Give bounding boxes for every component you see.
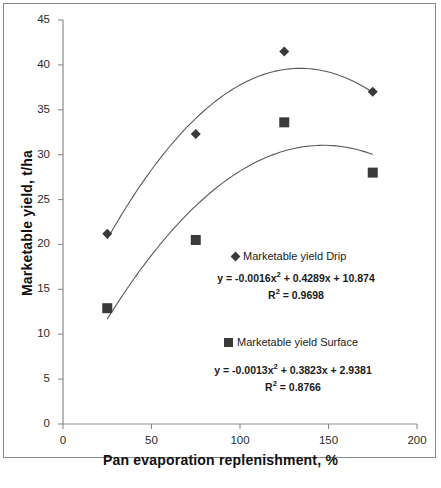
- data-point-drip: [368, 87, 378, 97]
- drip-trendline-equation: y = -0.0016x2 + 0.4289x + 10.874: [188, 270, 404, 284]
- x-tick-label: 150: [309, 434, 349, 446]
- x-tick-label: 200: [397, 434, 437, 446]
- data-point-surface: [279, 117, 289, 127]
- x-tick-marks: [63, 424, 417, 429]
- legend-label-surface: Marketable yield Surface: [237, 336, 358, 348]
- x-tick-label: 50: [132, 434, 172, 446]
- drip-r-squared: R2 = 0.9698: [188, 287, 404, 301]
- legend-entry-drip[interactable]: Marketable yield Drip: [232, 250, 346, 262]
- x-tick-label: 0: [43, 434, 83, 446]
- diamond-marker-icon: [231, 251, 241, 261]
- y-tick-label: 5: [24, 372, 50, 384]
- data-point-surface: [102, 303, 112, 313]
- y-tick-marks: [58, 20, 63, 424]
- legend-label-drip: Marketable yield Drip: [243, 250, 346, 262]
- data-point-surface: [368, 168, 378, 178]
- y-tick-label: 45: [24, 13, 50, 25]
- chart-figure: 051015202530354045 050100150200 Marketab…: [0, 0, 441, 488]
- x-axis-title: Pan evaporation replenishment, %: [0, 452, 441, 468]
- legend-entry-surface[interactable]: Marketable yield Surface: [224, 336, 358, 348]
- surface-r-squared: R2 = 0.8766: [185, 379, 401, 393]
- data-point-drip: [102, 229, 112, 239]
- data-point-drip: [191, 129, 201, 139]
- y-tick-label: 40: [24, 58, 50, 70]
- trendline-drip: [107, 68, 373, 239]
- data-point-drip: [279, 46, 289, 56]
- surface-trendline-equation: y = -0.0013x2 + 0.3823x + 2.9381: [185, 362, 401, 376]
- scatter-plot-canvas: [0, 0, 441, 488]
- y-tick-label: 0: [24, 417, 50, 429]
- y-axis-title: Marketable yield, t/ha: [19, 103, 35, 343]
- x-tick-label: 100: [220, 434, 260, 446]
- square-marker-icon: [224, 338, 233, 347]
- data-point-surface: [191, 235, 201, 245]
